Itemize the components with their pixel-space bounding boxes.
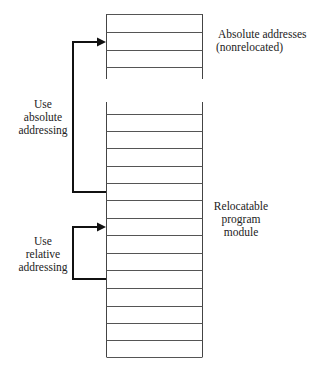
relative-addressing-arrow xyxy=(73,223,106,280)
arrowhead-icon xyxy=(97,223,106,232)
absolute-label-line3: addressing xyxy=(18,124,67,137)
absolute-label-line1: Use xyxy=(34,98,52,110)
relative-arrow-path xyxy=(73,227,106,279)
absolute-label-line2: absolute xyxy=(24,111,62,123)
top-block-label-line1: Absolute addresses xyxy=(218,28,307,40)
bottom-block-label-line3: module xyxy=(224,226,259,238)
bottom-block-label-line1: Relocatable xyxy=(214,200,268,212)
bottom-block-label-line2: program xyxy=(222,213,261,226)
relative-label-line1: Use xyxy=(34,235,52,247)
absolute-arrow-path xyxy=(73,42,106,192)
relative-label-line3: addressing xyxy=(18,261,67,274)
absolute-addressing-arrow xyxy=(73,38,106,193)
top-block-label-line2: (nonrelocated) xyxy=(216,41,283,54)
relocatable-module-block xyxy=(107,102,203,358)
arrowhead-icon xyxy=(97,38,106,47)
memory-relocation-diagram: Absolute addresses (nonrelocated) Reloca… xyxy=(0,0,312,365)
absolute-address-block xyxy=(107,14,203,79)
relative-label-line2: relative xyxy=(26,248,60,260)
